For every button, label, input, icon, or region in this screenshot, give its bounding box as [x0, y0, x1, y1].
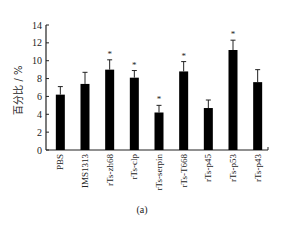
bar: [253, 82, 262, 150]
x-tick-label: rTs-T668: [179, 154, 189, 188]
x-tick-label: rTs-p53: [228, 154, 238, 182]
significance-marker: *: [231, 29, 236, 39]
x-tick-label: rTs-clp: [129, 154, 139, 180]
bar: [179, 71, 188, 150]
bar: [130, 78, 139, 150]
y-tick-label: 6: [37, 91, 42, 102]
y-axis-label: 百分比 / %: [13, 65, 24, 114]
x-tick-label: PBS: [55, 154, 65, 170]
y-tick-label: 10: [32, 55, 42, 66]
x-tick-labels: PBSIMS1313rTs-zh68rTs-clprTs-serpinrTs-T…: [55, 154, 262, 191]
y-axis: 02468101214: [32, 20, 49, 156]
y-tick-label: 4: [37, 109, 42, 120]
figure-caption: (a): [136, 204, 147, 216]
significance-marker: *: [157, 94, 162, 104]
y-tick-label: 2: [37, 127, 42, 138]
x-tick-label: IMS1313: [80, 154, 90, 189]
x-tick-label: rTs-zh68: [105, 154, 115, 186]
bar: [204, 108, 213, 150]
y-tick-label: 14: [32, 20, 42, 31]
bar: [81, 84, 90, 150]
y-tick-label: 8: [37, 73, 42, 84]
significance-marker: *: [181, 51, 186, 61]
x-tick-label: rTs-p43: [253, 154, 263, 182]
significance-marker: *: [132, 60, 137, 70]
bar: [155, 113, 164, 151]
bar-chart: 02468101214 ***** PBSIMS1313rTs-zh68rTs-…: [0, 0, 284, 232]
bar: [56, 95, 65, 150]
bars: *****: [56, 29, 262, 150]
x-tick-label: rTs-serpin: [154, 154, 164, 191]
bar: [105, 70, 114, 150]
significance-marker: *: [107, 49, 112, 59]
y-tick-label: 12: [32, 37, 42, 48]
x-tick-label: rTs-p45: [203, 154, 213, 182]
bar: [229, 50, 238, 150]
y-tick-label: 0: [37, 145, 42, 156]
